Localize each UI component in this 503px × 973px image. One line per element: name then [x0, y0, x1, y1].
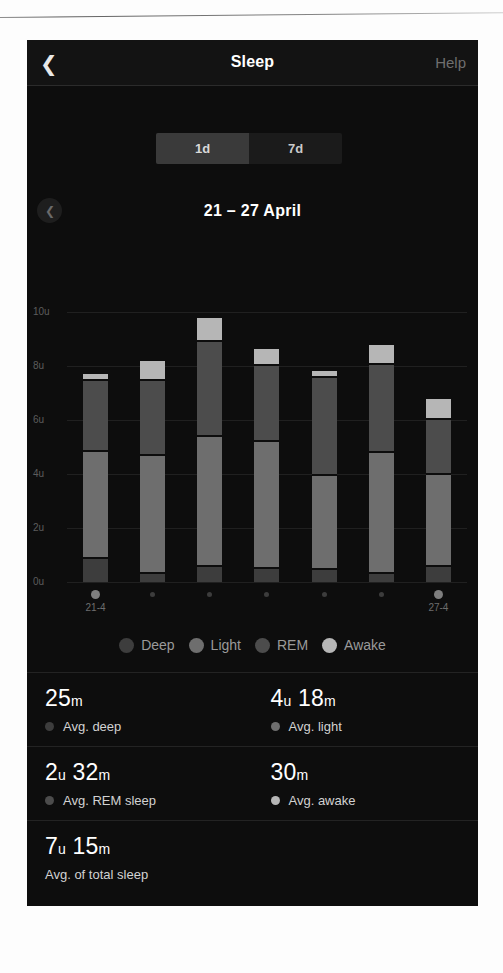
- legend-label: Awake: [344, 637, 386, 653]
- page-scan-rule: [0, 12, 503, 18]
- chart-segment-light: [254, 442, 279, 566]
- chart-bar[interactable]: [369, 345, 394, 582]
- chart-segment-rem: [426, 420, 451, 473]
- stat-color-dot: [271, 722, 280, 731]
- stat-row: 7u 15mAvg. of total sleep: [27, 820, 478, 894]
- chart-segment-deep: [83, 559, 108, 582]
- page-root: ❮ Sleep Help 1d 7d ❮ 21 – 27 April 10u8u…: [0, 0, 503, 973]
- help-link[interactable]: Help: [435, 54, 466, 71]
- stat-label: Avg. of total sleep: [45, 867, 148, 882]
- chart-segment-rem: [312, 378, 337, 474]
- chart-axis-dot: [150, 592, 155, 597]
- chart-segment-light: [140, 456, 165, 572]
- stat-value: 4u 18m: [271, 685, 479, 712]
- chart-axis-dot: [434, 590, 443, 599]
- chart-segment-rem: [140, 381, 165, 454]
- stat-label: Avg. awake: [289, 793, 356, 808]
- chart-y-tick-label: 8u: [33, 360, 67, 371]
- chart-bar-slot[interactable]: [67, 312, 124, 582]
- stat-card[interactable]: 7u 15mAvg. of total sleep: [27, 821, 478, 894]
- chart-x-tick-label: [296, 602, 353, 616]
- legend-item-rem[interactable]: REM: [255, 637, 308, 653]
- chart-bar[interactable]: [140, 361, 165, 582]
- chart-x-tick-label: 21-4: [67, 602, 124, 616]
- chart-x-tick-label: [181, 602, 238, 616]
- chart-segment-awake: [369, 345, 394, 363]
- chart-segment-deep: [369, 574, 394, 582]
- header-divider: [27, 85, 478, 86]
- chart-bar-slot[interactable]: [238, 312, 295, 582]
- chart-y-tick-label: 6u: [33, 414, 67, 425]
- chart-axis-labels: 21-427-4: [67, 602, 467, 616]
- chart-axis-dot-slot: [238, 588, 295, 600]
- stat-value: 25m: [45, 685, 253, 712]
- chart-bar-slot[interactable]: [124, 312, 181, 582]
- chart-axis-dot: [264, 592, 269, 597]
- stat-label-row: Avg. deep: [45, 719, 253, 734]
- chart-bar[interactable]: [254, 349, 279, 582]
- chart-segment-light: [369, 453, 394, 572]
- chart-segment-awake: [426, 399, 451, 418]
- chart-segment-light: [83, 452, 108, 557]
- stat-card[interactable]: 4u 18mAvg. light: [253, 673, 479, 746]
- stat-label-row: Avg. light: [271, 719, 479, 734]
- chart-axis-dot: [207, 592, 212, 597]
- chart-segment-deep: [312, 570, 337, 582]
- legend-color-dot: [189, 638, 204, 653]
- chart-segment-rem: [369, 365, 394, 451]
- stat-card[interactable]: 2u 32mAvg. REM sleep: [27, 747, 253, 820]
- chart-bar[interactable]: [83, 374, 108, 582]
- chart-axis-dot-slot: [181, 588, 238, 600]
- stat-color-dot: [45, 796, 54, 805]
- range-segmented-control[interactable]: 1d 7d: [156, 133, 342, 164]
- legend-color-dot: [322, 638, 337, 653]
- legend-label: Deep: [141, 637, 174, 653]
- legend-color-dot: [119, 638, 134, 653]
- chart-bar[interactable]: [426, 399, 451, 582]
- chart-y-tick-label: 4u: [33, 468, 67, 479]
- chart-segment-deep: [426, 567, 451, 582]
- stat-card[interactable]: 30mAvg. awake: [253, 747, 479, 820]
- legend-item-awake[interactable]: Awake: [322, 637, 386, 653]
- stat-label: Avg. deep: [63, 719, 121, 734]
- chart-bar[interactable]: [197, 318, 222, 582]
- chart-bars: [67, 312, 467, 582]
- stat-label-row: Avg. REM sleep: [45, 793, 253, 808]
- chart-x-tick-label: [353, 602, 410, 616]
- stat-value: 7u 15m: [45, 833, 478, 860]
- legend-label: REM: [277, 637, 308, 653]
- chart-axis-dot: [379, 592, 384, 597]
- chart-gridline: [67, 582, 467, 583]
- sleep-app-panel: ❮ Sleep Help 1d 7d ❮ 21 – 27 April 10u8u…: [27, 40, 478, 906]
- chart-axis-dot-slot: [124, 588, 181, 600]
- chart-bar-slot[interactable]: [181, 312, 238, 582]
- chart-segment-rem: [83, 381, 108, 450]
- range-option-1d[interactable]: 1d: [156, 133, 249, 164]
- chart-bar-slot[interactable]: [410, 312, 467, 582]
- chart-segment-deep: [140, 574, 165, 582]
- stat-row: 2u 32mAvg. REM sleep30mAvg. awake: [27, 746, 478, 820]
- chart-x-tick-label: [238, 602, 295, 616]
- chart-bar-slot[interactable]: [353, 312, 410, 582]
- chart-y-tick-label: 10u: [33, 306, 67, 317]
- chart-legend: DeepLightREMAwake: [27, 632, 478, 658]
- stat-label-row: Avg. awake: [271, 793, 479, 808]
- chart-axis-dot: [322, 592, 327, 597]
- stat-card[interactable]: 25mAvg. deep: [27, 673, 253, 746]
- chart-segment-rem: [197, 342, 222, 435]
- chart-bar[interactable]: [312, 371, 337, 582]
- legend-color-dot: [255, 638, 270, 653]
- chart-axis-dot-slot: [296, 588, 353, 600]
- legend-item-deep[interactable]: Deep: [119, 637, 174, 653]
- stat-label: Avg. REM sleep: [63, 793, 156, 808]
- chart-segment-light: [426, 475, 451, 565]
- legend-item-light[interactable]: Light: [189, 637, 241, 653]
- chart-segment-deep: [254, 569, 279, 583]
- range-option-7d[interactable]: 7d: [249, 133, 342, 164]
- app-header: ❮ Sleep Help: [27, 40, 478, 86]
- chart-bar-slot[interactable]: [296, 312, 353, 582]
- chart-y-tick-label: 2u: [33, 522, 67, 533]
- stat-color-dot: [45, 722, 54, 731]
- stat-label-row: Avg. of total sleep: [45, 867, 478, 882]
- chart-segment-light: [312, 476, 337, 568]
